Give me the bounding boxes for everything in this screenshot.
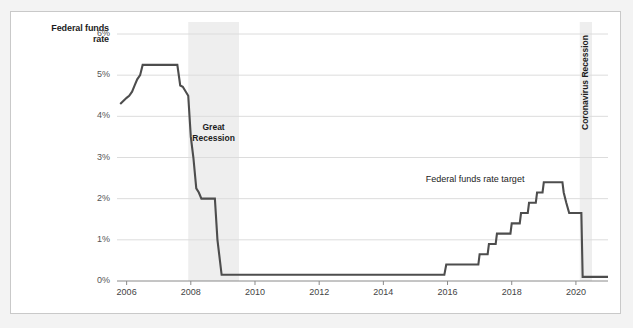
y-tick-label: 0%	[88, 275, 110, 285]
plot-area: Federal funds rate 0%1%2%3%4%5%6%2006200…	[11, 12, 621, 314]
y-tick-label: 4%	[88, 110, 110, 120]
y-tick-label: 3%	[88, 152, 110, 162]
recession-band-label-1: Coronavirus Recession	[580, 35, 590, 130]
x-tick-label: 2008	[171, 287, 211, 297]
x-tick-label: 2018	[492, 287, 532, 297]
y-tick-label: 1%	[88, 234, 110, 244]
figure-root: Federal funds rate 0%1%2%3%4%5%6%2006200…	[0, 0, 633, 328]
x-tick-label: 2006	[107, 287, 147, 297]
y-tick-label: 6%	[88, 28, 110, 38]
recession-band-label-0: GreatRecession	[174, 122, 254, 144]
recession-band-0	[188, 22, 239, 281]
recession-band-label-line: Great	[202, 122, 224, 132]
x-tick-label: 2014	[363, 287, 403, 297]
series-annotation-0: Federal funds rate target	[426, 174, 525, 184]
x-tick-label: 2012	[299, 287, 339, 297]
x-tick-label: 2016	[428, 287, 468, 297]
recession-band-label-line: Recession	[192, 133, 235, 143]
chart-frame: Federal funds rate 0%1%2%3%4%5%6%2006200…	[10, 11, 621, 314]
x-tick-label: 2010	[235, 287, 275, 297]
y-tick-label: 5%	[88, 69, 110, 79]
y-tick-label: 2%	[88, 193, 110, 203]
federal-funds-rate-chart	[11, 12, 621, 314]
x-tick-label: 2020	[556, 287, 596, 297]
